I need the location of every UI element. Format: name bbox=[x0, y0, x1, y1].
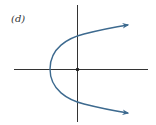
parabola-upper-branch bbox=[50, 25, 128, 69]
parabola-lower-branch bbox=[50, 69, 128, 113]
origin-dot bbox=[76, 68, 80, 72]
parabola-figure: (d) bbox=[0, 0, 156, 125]
graph-canvas bbox=[0, 0, 156, 125]
